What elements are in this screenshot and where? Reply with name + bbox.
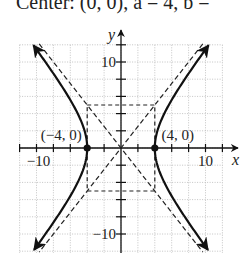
vertex-point: [151, 144, 158, 151]
x-tick-label: −10: [27, 153, 50, 169]
y-tick-label: −10: [93, 226, 116, 242]
vertex-label: (−4, 0): [41, 127, 82, 144]
y-tick-label: 10: [101, 54, 116, 70]
x-axis-label: x: [231, 151, 239, 168]
vertex-point: [84, 144, 91, 151]
hyperbola-plot: (−4, 0)(4, 0) xy−101010−10: [0, 0, 251, 253]
y-axis-label: y: [106, 26, 116, 44]
x-tick-label: 10: [198, 153, 213, 169]
vertex-label: (4, 0): [162, 127, 195, 144]
